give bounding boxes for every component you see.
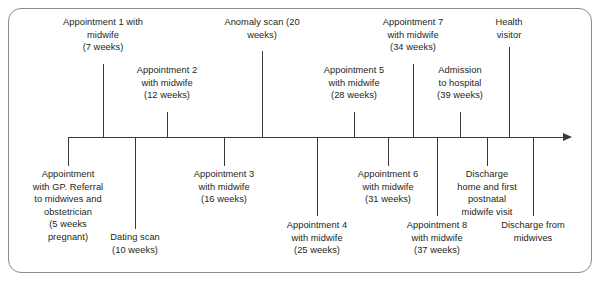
event-label-appointment-5: Appointment 5 with midwife (28 weeks) [324,64,385,102]
event-label-discharge-home: Discharge home and first postnatal midwi… [457,168,517,218]
event-label-appointment-4: Appointment 4 with midwife (25 weeks) [287,219,348,257]
event-stem-discharge-from-midwives [533,137,534,216]
event-label-appointment-gp: Appointment with GP. Referral to midwive… [33,168,103,244]
event-stem-appointment-2 [167,112,168,137]
event-label-appointment-2: Appointment 2 with midwife (12 weeks) [137,64,198,102]
event-label-appointment-6: Appointment 6 with midwife (31 weeks) [358,168,419,206]
event-label-appointment-8: Appointment 8 with midwife (37 weeks) [407,219,468,257]
event-stem-appointment-8 [437,137,438,216]
event-stem-discharge-home [487,137,488,166]
event-stem-dating-scan [135,137,136,229]
event-stem-appointment-5 [354,112,355,137]
event-stem-appointment-gp [68,137,69,166]
event-label-discharge-from-midwives: Discharge from midwives [501,219,565,244]
axis-horizontal-line [68,137,564,138]
event-stem-anomaly-scan [262,51,263,137]
event-stem-appointment-6 [388,137,389,166]
event-label-health-visitor: Health visitor [495,16,522,41]
event-label-dating-scan: Dating scan (10 weeks) [110,231,160,256]
event-label-appointment-7: Appointment 7 with midwife (34 weeks) [383,16,444,54]
event-stem-admission-to-hospital [460,112,461,137]
event-stem-appointment-4 [317,137,318,216]
event-stem-appointment-3 [224,137,225,166]
timeline-diagram: Appointment 1 with midwife (7 weeks)Appo… [0,0,602,287]
event-label-appointment-1: Appointment 1 with midwife (7 weeks) [63,16,143,54]
event-label-appointment-3: Appointment 3 with midwife (16 weeks) [194,168,255,206]
event-label-admission-to-hospital: Admission to hospital (39 weeks) [437,64,483,102]
event-stem-appointment-1 [103,64,104,137]
event-label-anomaly-scan: Anomaly scan (20 weeks) [224,16,299,41]
event-stem-health-visitor [509,47,510,137]
event-stem-appointment-7 [413,64,414,137]
axis-arrow-icon [563,133,572,141]
